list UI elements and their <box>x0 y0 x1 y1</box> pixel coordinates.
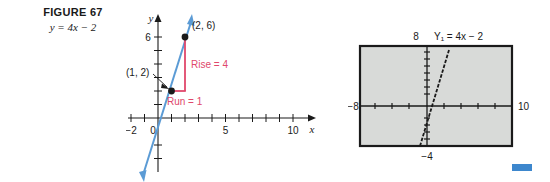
point-1-2-leader <box>153 74 167 87</box>
x-tick-label-neg2: −2 <box>126 125 137 136</box>
calculator-screen: 8 Y₁ = 4x − 2 −8 10 −4 <box>348 22 544 162</box>
x-tick-label-5: 5 <box>223 125 229 136</box>
point-2-6 <box>182 34 189 41</box>
y-tick-label-6: 6 <box>145 32 151 43</box>
calc-ymax-label: 8 <box>413 31 419 42</box>
run-label: Run = 1 <box>167 96 203 107</box>
y-axis-arrowhead <box>155 14 162 22</box>
rise-label: Rise = 4 <box>191 59 228 70</box>
calc-ymin-label: −4 <box>421 151 433 162</box>
calc-xmax-label: 10 <box>518 101 530 112</box>
calculator-screen-svg: 8 Y₁ = 4x − 2 −8 10 −4 <box>348 22 544 162</box>
x-tick-label-0: 0 <box>150 125 156 136</box>
point-1-2-leader-arrowhead <box>161 84 170 90</box>
figure-caption: FIGURE 67 y = 4x − 2 <box>18 6 128 33</box>
function-line-arrowhead-bottom <box>139 170 147 182</box>
page-marker-icon <box>512 164 532 171</box>
point-label-2-6: (2, 6) <box>192 20 215 31</box>
point-1-2 <box>168 88 175 95</box>
y-axis-label: y <box>148 12 154 24</box>
x-axis-arrowhead <box>308 115 316 122</box>
coordinate-graph: −2 0 5 10 6 x y (2, 6) (1, 2) Rise = 4 R… <box>126 0 326 182</box>
coordinate-graph-svg: −2 0 5 10 6 x y (2, 6) (1, 2) Rise = 4 R… <box>126 0 326 182</box>
figure-title: FIGURE 67 <box>18 6 128 18</box>
calc-xmin-label: −8 <box>348 101 359 112</box>
figure-equation: y = 4x − 2 <box>18 21 128 33</box>
x-tick-label-10: 10 <box>287 125 299 136</box>
point-label-1-2: (1, 2) <box>126 67 149 78</box>
x-axis-label: x <box>309 123 315 135</box>
calc-equation-label: Y₁ = 4x − 2 <box>434 31 483 42</box>
